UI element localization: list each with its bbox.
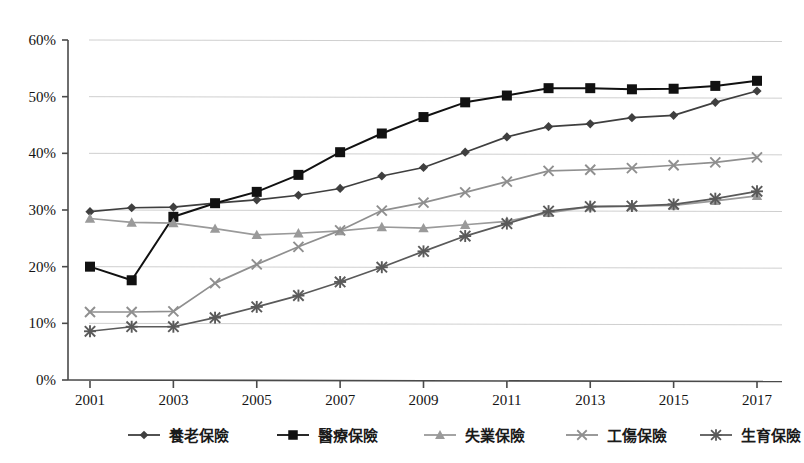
data-point-marker-star [167, 321, 179, 333]
data-point-marker-square [460, 97, 470, 107]
data-point-marker-square [627, 84, 637, 94]
data-point-marker-star [418, 245, 430, 257]
y-tick-label: 10% [29, 315, 57, 331]
x-tick-label: 2017 [742, 392, 773, 408]
data-point-marker-square [710, 81, 720, 91]
x-tick-label: 2011 [492, 392, 521, 408]
y-tick-label: 60% [29, 32, 57, 48]
data-point-marker-star [543, 205, 555, 217]
data-point-marker-star [292, 290, 304, 302]
data-point-marker-star [668, 198, 680, 210]
legend-label: 工傷保險 [607, 427, 667, 445]
data-point-marker-square [377, 129, 387, 139]
data-point-marker-square [210, 198, 220, 208]
data-point-marker-square [544, 83, 554, 93]
data-point-marker-square [335, 147, 345, 157]
y-tick-label: 50% [29, 89, 57, 105]
x-tick-label: 2005 [242, 392, 272, 408]
data-point-marker-square [669, 84, 679, 94]
data-point-marker-square [252, 187, 262, 197]
data-point-marker-star [501, 218, 513, 230]
line-chart-figure: 0%10%20%30%40%50%60% 2001200320052007200… [0, 0, 804, 463]
data-point-marker-star [334, 276, 346, 288]
x-tick-label: 2001 [75, 392, 105, 408]
data-point-marker-star [84, 325, 96, 337]
data-point-marker-star [459, 230, 471, 242]
data-point-marker-square [85, 262, 95, 272]
y-tick-label: 30% [29, 202, 57, 218]
x-tick-label: 2003 [158, 392, 188, 408]
data-point-marker-star [709, 193, 721, 205]
data-point-marker-star [126, 321, 138, 333]
legend-label: 醫療保險 [318, 427, 378, 445]
chart-canvas: 0%10%20%30%40%50%60% 2001200320052007200… [0, 0, 804, 463]
y-tick-label: 40% [29, 145, 57, 161]
y-tick-label: 20% [29, 259, 57, 275]
data-point-marker-star [209, 312, 221, 324]
x-axis-tick-labels: 200120032005200720092011201320152017 [75, 392, 773, 408]
data-point-marker-star [626, 200, 638, 212]
legend-label: 養老保險 [168, 427, 229, 445]
x-tick-label: 2007 [325, 392, 356, 408]
data-point-marker-square [585, 83, 595, 93]
x-tick-label: 2009 [409, 392, 439, 408]
data-point-marker-square [752, 76, 762, 86]
data-point-marker-square [293, 170, 303, 180]
data-point-marker-square [127, 275, 137, 285]
legend-label: 生育保險 [741, 427, 801, 445]
data-point-marker-star [251, 301, 263, 313]
data-point-marker-star [751, 185, 763, 197]
data-point-marker-star [584, 201, 596, 213]
legend-label: 失業保險 [465, 427, 525, 445]
data-point-marker-square [502, 91, 512, 101]
data-point-marker-star [710, 429, 721, 440]
data-point-marker-square [288, 430, 298, 440]
y-tick-label: 0% [36, 372, 56, 388]
x-tick-label: 2015 [659, 392, 689, 408]
data-point-marker-square [419, 112, 429, 122]
data-point-marker-star [376, 261, 388, 273]
x-tick-label: 2013 [575, 392, 605, 408]
